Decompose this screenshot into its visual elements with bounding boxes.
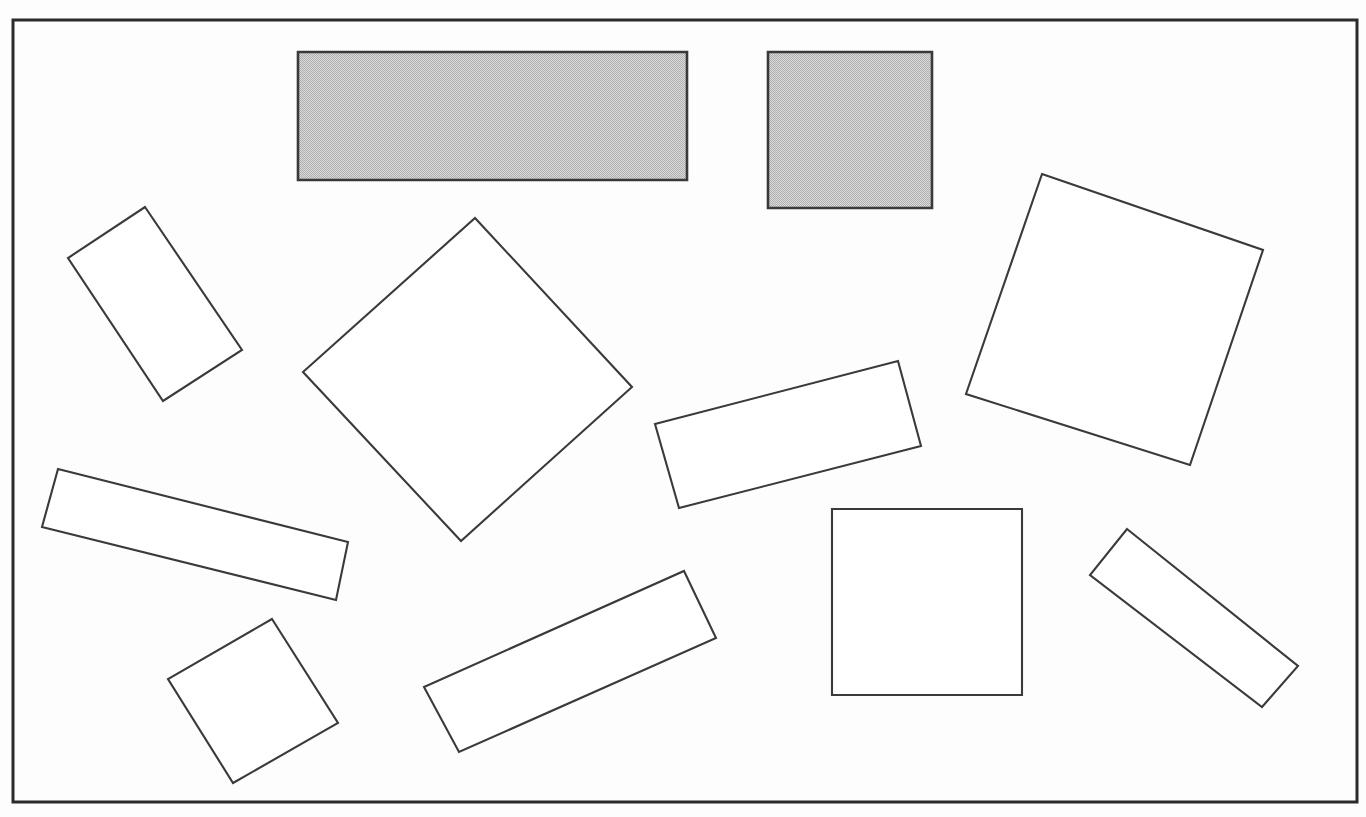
shapes-diagram [0,0,1366,817]
gray-upright-rectangle [768,52,932,208]
gray-wide-rectangle [298,52,687,180]
figure-canvas [0,0,1366,817]
upright-rectangle-bottom-right [832,509,1022,695]
